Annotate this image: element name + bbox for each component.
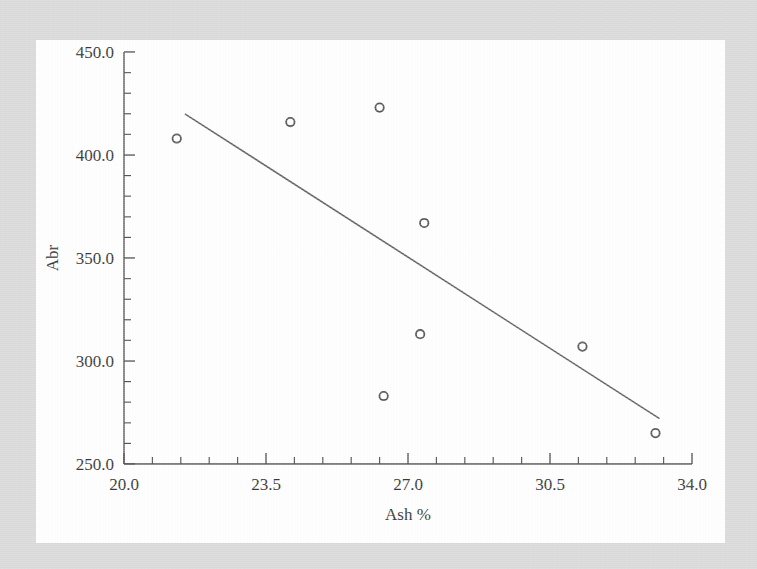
data-point-marker bbox=[379, 392, 387, 400]
regression-line-group bbox=[185, 114, 660, 419]
data-point-marker bbox=[375, 103, 383, 111]
y-tick-label: 450.0 bbox=[76, 43, 114, 62]
y-tick-label: 400.0 bbox=[76, 146, 114, 165]
data-point-marker bbox=[420, 219, 428, 227]
y-tick-label: 250.0 bbox=[76, 455, 114, 474]
data-point-marker bbox=[416, 330, 424, 338]
x-tick-label: 23.5 bbox=[251, 475, 281, 494]
y-axis-title: Abr bbox=[43, 244, 62, 271]
x-tick-label: 30.5 bbox=[535, 475, 565, 494]
scatter-plot: 20.023.527.030.534.0250.0300.0350.0400.0… bbox=[36, 40, 725, 543]
chart-panel: 20.023.527.030.534.0250.0300.0350.0400.0… bbox=[36, 40, 725, 543]
y-tick-label: 300.0 bbox=[76, 352, 114, 371]
y-tick-label: 350.0 bbox=[76, 249, 114, 268]
x-axis-title: Ash % bbox=[385, 505, 431, 524]
data-point-marker bbox=[578, 342, 586, 350]
x-tick-label: 27.0 bbox=[393, 475, 423, 494]
regression-line bbox=[185, 114, 660, 419]
data-point-marker bbox=[173, 134, 181, 142]
x-tick-label: 20.0 bbox=[109, 475, 139, 494]
axis-labels-group: 20.023.527.030.534.0250.0300.0350.0400.0… bbox=[43, 43, 707, 524]
figure-background: 20.023.527.030.534.0250.0300.0350.0400.0… bbox=[0, 0, 757, 569]
x-tick-label: 34.0 bbox=[677, 475, 707, 494]
data-point-marker bbox=[651, 429, 659, 437]
data-point-marker bbox=[286, 118, 294, 126]
